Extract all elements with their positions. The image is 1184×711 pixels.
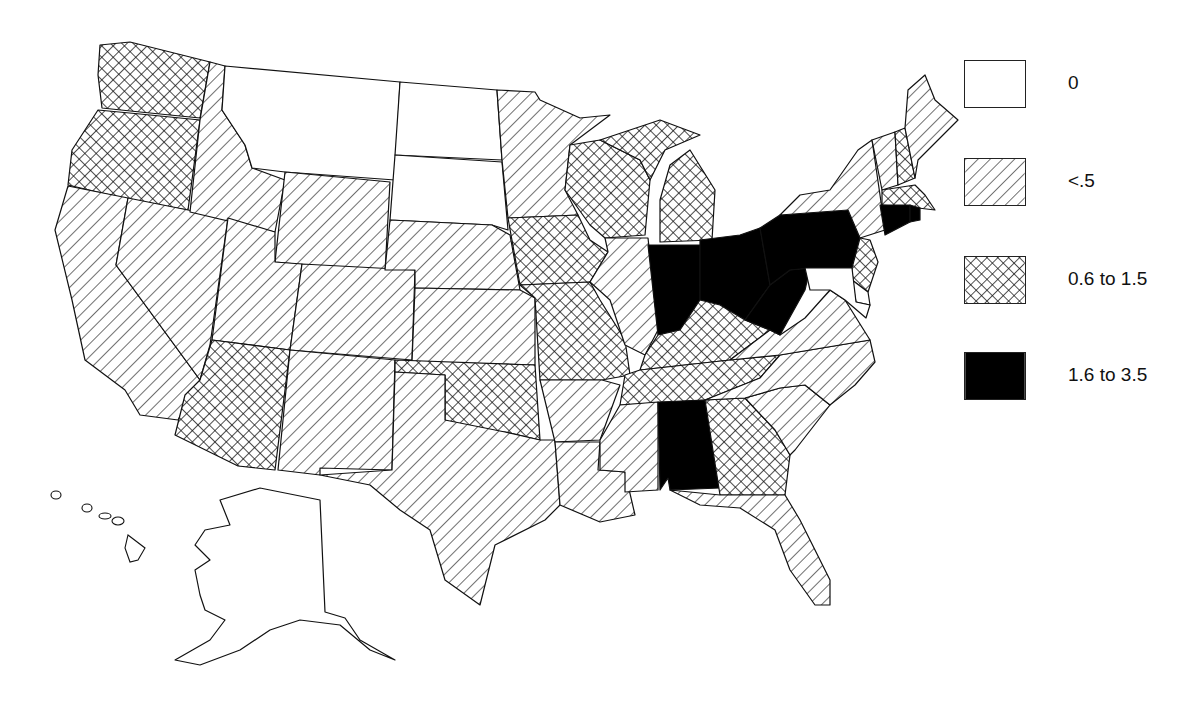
state-ct[interactable] bbox=[880, 205, 910, 235]
legend-swatch-none bbox=[964, 60, 1026, 108]
state-nm[interactable] bbox=[278, 350, 395, 475]
state-nd[interactable] bbox=[395, 82, 502, 160]
legend-label: 0 bbox=[1068, 72, 1079, 94]
legend-label: 0.6 to 1.5 bbox=[1068, 268, 1147, 290]
state-ri[interactable] bbox=[910, 205, 920, 222]
legend-item-0: 0 bbox=[964, 60, 1174, 112]
legend-swatch-diagonal bbox=[964, 158, 1026, 206]
legend-label: 1.6 to 3.5 bbox=[1068, 364, 1147, 386]
state-mi-lower[interactable] bbox=[660, 150, 715, 242]
state-hi[interactable] bbox=[51, 491, 145, 562]
legend-label: <.5 bbox=[1068, 170, 1095, 192]
legend-swatch-solid bbox=[964, 352, 1026, 400]
state-sd[interactable] bbox=[390, 155, 508, 230]
state-co[interactable] bbox=[290, 264, 415, 360]
legend-item-2: 0.6 to 1.5 bbox=[964, 256, 1174, 308]
legend-item-3: 1.6 to 3.5 bbox=[964, 352, 1174, 404]
state-ak[interactable] bbox=[175, 488, 395, 665]
legend-swatch-cross bbox=[964, 256, 1026, 304]
state-fl[interactable] bbox=[670, 490, 830, 605]
state-me[interactable] bbox=[905, 75, 958, 178]
legend-item-1: <.5 bbox=[964, 158, 1174, 210]
state-wy[interactable] bbox=[275, 172, 390, 272]
state-wa[interactable] bbox=[98, 42, 210, 118]
state-ks[interactable] bbox=[412, 288, 535, 365]
